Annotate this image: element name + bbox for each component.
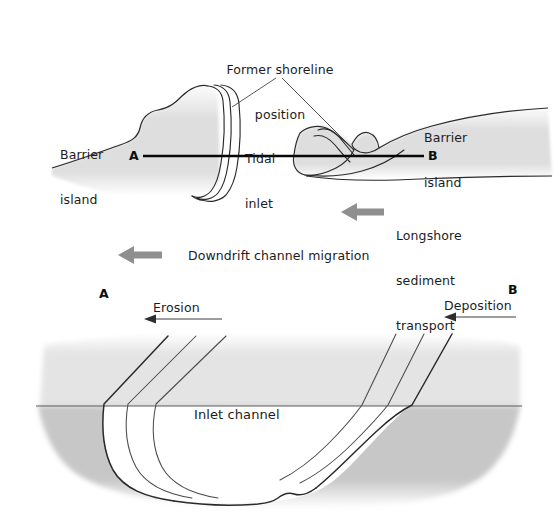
downdrift-migration-label: Downdrift channel migration xyxy=(188,248,369,263)
erosion-label: Erosion xyxy=(153,300,200,315)
longshore-transport-label-line3: transport xyxy=(396,318,462,333)
former-shoreline-label: Former shoreline position xyxy=(196,32,364,152)
figure-root: Former shoreline position Barrier island… xyxy=(0,0,560,516)
former-shoreline-label-line2: position xyxy=(196,107,364,122)
longshore-transport-arrow xyxy=(341,203,384,221)
section-marker-b-map: B xyxy=(428,148,438,163)
barrier-island-right-label-line2: island xyxy=(424,175,467,190)
downdrift-migration-arrow xyxy=(118,246,162,264)
erosion-arrow xyxy=(144,315,222,324)
barrier-island-left-label-line1: Barrier xyxy=(60,147,103,162)
deposition-label: Deposition xyxy=(444,298,512,313)
former-shoreline-label-line1: Former shoreline xyxy=(196,62,364,77)
barrier-island-left-label-line2: island xyxy=(60,192,103,207)
section-marker-b-cross: B xyxy=(508,282,518,297)
longshore-transport-label: Longshore sediment transport xyxy=(396,198,462,363)
tidal-inlet-label-line1: Tidal xyxy=(245,151,275,166)
longshore-transport-label-line2: sediment xyxy=(396,273,462,288)
section-marker-a-cross: A xyxy=(99,286,109,301)
tidal-inlet-label: Tidal inlet xyxy=(245,121,275,241)
inlet-channel-label: Inlet channel xyxy=(194,407,280,422)
barrier-island-right-label-line1: Barrier xyxy=(424,130,467,145)
section-marker-a-map: A xyxy=(129,148,139,163)
tidal-inlet-label-line2: inlet xyxy=(245,196,275,211)
longshore-transport-label-line1: Longshore xyxy=(396,228,462,243)
barrier-island-left-label: Barrier island xyxy=(60,117,103,237)
